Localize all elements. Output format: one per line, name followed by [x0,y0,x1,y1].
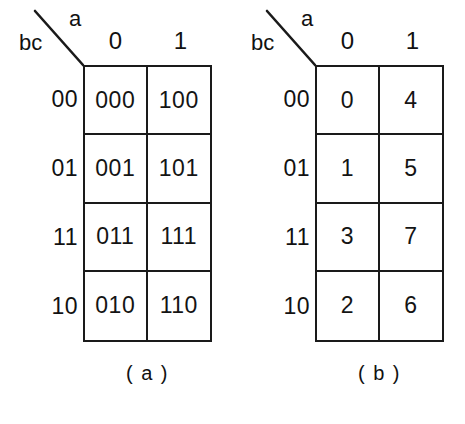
map-b-row-header-2: 11 [252,203,312,272]
map-b-row-header-1: 01 [252,134,312,203]
map-a-cell-r1c0: 001 [85,135,148,203]
map-a-row-header-2: 11 [20,203,80,272]
map-a-grid: 000 100 001 101 011 111 010 110 [83,65,212,342]
map-b-row-header-0: 00 [252,65,312,134]
map-b-cell-r2c1: 7 [380,204,443,272]
map-a-cell-r1c1: 101 [148,135,211,203]
map-a-row-header-1: 01 [20,134,80,203]
map-a-row-header-0: 00 [20,65,80,134]
map-b-cell-r0c1: 4 [380,67,443,135]
map-a-column-header-1: 1 [148,28,213,54]
map-b-cell-r2c0: 3 [317,204,380,272]
map-a-row-header-3: 10 [20,272,80,341]
karnaugh-map-a: bc a 0 1 00 01 11 10 000 100 001 101 011… [0,0,232,424]
map-b-row-variables-label: bc [251,32,274,54]
map-b-cell-r1c1: 5 [380,135,443,203]
map-a-cell-r0c1: 100 [148,67,211,135]
map-b-column-variable-label: a [301,8,313,30]
map-b-cell-r0c0: 0 [317,67,380,135]
map-a-cell-r2c0: 011 [85,204,148,272]
map-b-cell-r1c0: 1 [317,135,380,203]
map-a-cell-r3c0: 010 [85,272,148,340]
map-b-column-header-1: 1 [380,28,445,54]
map-b-cell-r3c0: 2 [317,272,380,340]
map-b-column-header-0: 0 [315,28,380,54]
map-a-column-header-0: 0 [83,28,148,54]
map-b-cell-r3c1: 6 [380,272,443,340]
map-a-cell-r0c0: 000 [85,67,148,135]
karnaugh-map-b: bc a 0 1 00 01 11 10 0 4 1 5 3 7 2 6 ( b… [232,0,464,424]
map-b-grid: 0 4 1 5 3 7 2 6 [315,65,444,342]
map-a-row-variables-label: bc [19,32,42,54]
map-a-cell-r2c1: 111 [148,204,211,272]
map-a-column-variable-label: a [69,8,81,30]
map-a-caption: ( a ) [83,362,212,384]
map-b-row-header-3: 10 [252,272,312,341]
map-b-caption: ( b ) [315,362,444,384]
map-a-cell-r3c1: 110 [148,272,211,340]
karnaugh-map-figure: bc a 0 1 00 01 11 10 000 100 001 101 011… [0,0,465,424]
